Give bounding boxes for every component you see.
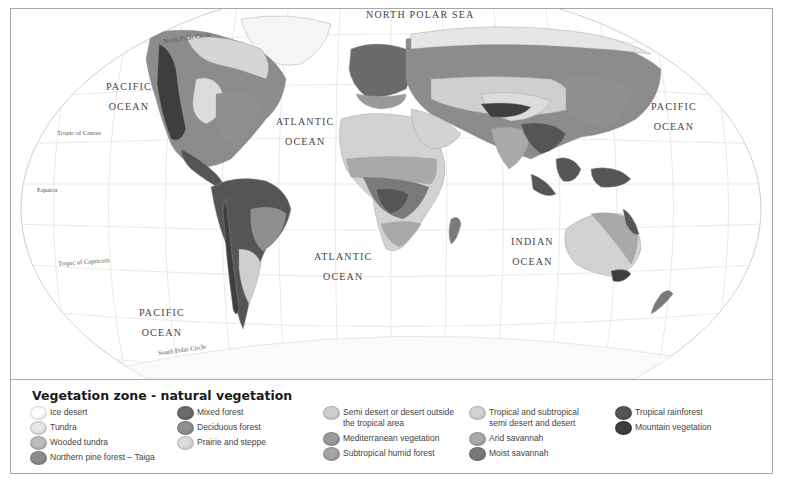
- map-canvas: [11, 9, 772, 379]
- legend-item-taiga: Northern pine forest – Taiga: [30, 451, 155, 466]
- swatch-wooded-tundra: [30, 436, 47, 450]
- label-north-polar-sea: NORTH POLAR SEA: [366, 9, 475, 25]
- swatch-ice-desert: [30, 406, 47, 420]
- legend-column-4: Tropical and subtropical semi desert and…: [469, 406, 589, 462]
- legend-item-tropical-semi-desert: Tropical and subtropical semi desert and…: [469, 406, 589, 432]
- label-pacific-ocean-sw: PACIFIC OCEAN: [139, 303, 185, 343]
- swatch-tropical-semi-desert: [469, 406, 486, 420]
- legend-item-prairie-steppe: Prairie and steppe: [177, 436, 266, 451]
- label-equator: Equator: [37, 186, 58, 193]
- legend-item-wooded-tundra: Wooded tundra: [30, 436, 155, 451]
- swatch-prairie-steppe: [177, 436, 194, 450]
- legend-item-arid-savannah: Arid savannah: [469, 432, 589, 447]
- legend-item-tropical-rainforest: Tropical rainforest: [615, 406, 712, 421]
- map-frame: NORTH POLAR SEA PACIFIC OCEAN ATLANTIC O…: [10, 8, 773, 474]
- legend-item-mediterranean: Mediterranean vegetation: [323, 432, 463, 447]
- legend-item-mixed-forest: Mixed forest: [177, 406, 266, 421]
- swatch-taiga: [30, 451, 47, 465]
- legend-item-subtropical-humid-forest: Subtropical humid forest: [323, 447, 463, 462]
- swatch-arid-savannah: [469, 432, 486, 446]
- legend: Vegetation zone - natural vegetation Ice…: [11, 380, 772, 474]
- swatch-mixed-forest: [177, 406, 194, 420]
- label-pacific-ocean-nw: PACIFIC OCEAN: [106, 77, 152, 117]
- legend-item-deciduous-forest: Deciduous forest: [177, 421, 266, 436]
- legend-column-3: Semi desert or desert outside the tropic…: [323, 406, 463, 462]
- swatch-mediterranean: [323, 432, 340, 446]
- label-atlantic-ocean-south: ATLANTIC OCEAN: [314, 247, 372, 287]
- legend-column-5: Tropical rainforest Mountain vegetation: [615, 406, 712, 436]
- world-vegetation-map: NORTH POLAR SEA PACIFIC OCEAN ATLANTIC O…: [11, 9, 772, 379]
- legend-item-mountain-vegetation: Mountain vegetation: [615, 421, 712, 436]
- legend-title: Vegetation zone - natural vegetation: [32, 388, 292, 403]
- legend-item-semi-desert-outside-tropics: Semi desert or desert outside the tropic…: [323, 406, 463, 432]
- swatch-mountain-vegetation: [615, 421, 632, 435]
- legend-item-moist-savannah: Moist savannah: [469, 447, 589, 462]
- swatch-tundra: [30, 421, 47, 435]
- label-tropic-of-cancer: Tropic of Cancer: [57, 129, 101, 136]
- label-atlantic-ocean-north: ATLANTIC OCEAN: [276, 112, 334, 152]
- swatch-subtropical-humid-forest: [323, 447, 340, 461]
- swatch-deciduous-forest: [177, 421, 194, 435]
- swatch-semi-desert-outside-tropics: [323, 406, 340, 420]
- label-pacific-ocean-ne: PACIFIC OCEAN: [651, 97, 697, 137]
- swatch-moist-savannah: [469, 447, 486, 461]
- legend-item-ice-desert: Ice desert: [30, 406, 155, 421]
- swatch-tropical-rainforest: [615, 406, 632, 420]
- legend-column-1: Ice desert Tundra Wooded tundra Northern…: [30, 406, 155, 466]
- label-indian-ocean: INDIAN OCEAN: [511, 232, 554, 272]
- legend-item-tundra: Tundra: [30, 421, 155, 436]
- legend-column-2: Mixed forest Deciduous forest Prairie an…: [177, 406, 266, 451]
